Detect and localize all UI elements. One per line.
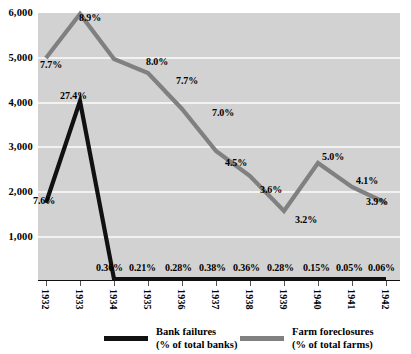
x-tick-mark: [114, 281, 115, 286]
data-label: 0.28%: [267, 263, 294, 273]
x-tick-mark: [148, 281, 149, 286]
data-label: 7.7%: [40, 60, 62, 70]
data-label: 4.1%: [356, 176, 378, 186]
data-label: 7.0%: [212, 108, 234, 118]
x-axis-line: [38, 280, 400, 281]
data-label: 0.15%: [303, 263, 330, 273]
x-tick-mark: [284, 281, 285, 286]
data-label: 0.36%: [96, 263, 123, 273]
x-tick-mark: [182, 281, 183, 286]
x-tick-mark: [352, 281, 353, 286]
legend-swatch-icon: [240, 336, 284, 341]
data-label: 0.28%: [165, 263, 192, 273]
data-label: 8.0%: [146, 57, 168, 67]
legend-series-sublabel: (% of total farms): [292, 338, 374, 351]
chart-legend: Bank failures (% of total banks) Farm fo…: [0, 325, 411, 354]
data-label: 4.5%: [225, 158, 247, 168]
legend-series-sublabel: (% of total banks): [156, 338, 237, 351]
chart-figure: 6,000 5,000 4,000 3,000 2,000 1,000 7.7%…: [0, 0, 411, 354]
data-label: 0.05%: [336, 263, 363, 273]
x-tick-mark: [80, 281, 81, 286]
data-label: 8.9%: [79, 13, 101, 23]
x-tick-mark: [250, 281, 251, 286]
data-label: 5.0%: [322, 152, 344, 162]
x-tick-mark: [216, 281, 217, 286]
data-label: 3.6%: [260, 185, 282, 195]
data-label: 7.7%: [176, 76, 198, 86]
data-label: 0.38%: [199, 263, 226, 273]
legend-label-bank-failures: Bank failures (% of total banks): [156, 325, 237, 351]
legend-label-farm-foreclosures: Farm foreclosures (% of total farms): [292, 325, 374, 351]
data-label: 7.6%: [33, 196, 55, 206]
x-tick-mark: [386, 281, 387, 286]
legend-series-name: Farm foreclosures: [292, 325, 374, 338]
x-tick-mark: [46, 281, 47, 286]
data-label: 0.36%: [233, 263, 260, 273]
data-label: 0.06%: [368, 263, 395, 273]
data-label: 3.9%: [366, 197, 388, 207]
x-tick-mark: [318, 281, 319, 286]
legend-swatch-icon: [104, 336, 148, 341]
data-label: 27.4%: [60, 91, 87, 101]
data-label: 0.21%: [129, 263, 156, 273]
legend-series-name: Bank failures: [156, 325, 237, 338]
data-label: 3.2%: [295, 215, 317, 225]
series-line-bank-failures: [46, 101, 386, 279]
